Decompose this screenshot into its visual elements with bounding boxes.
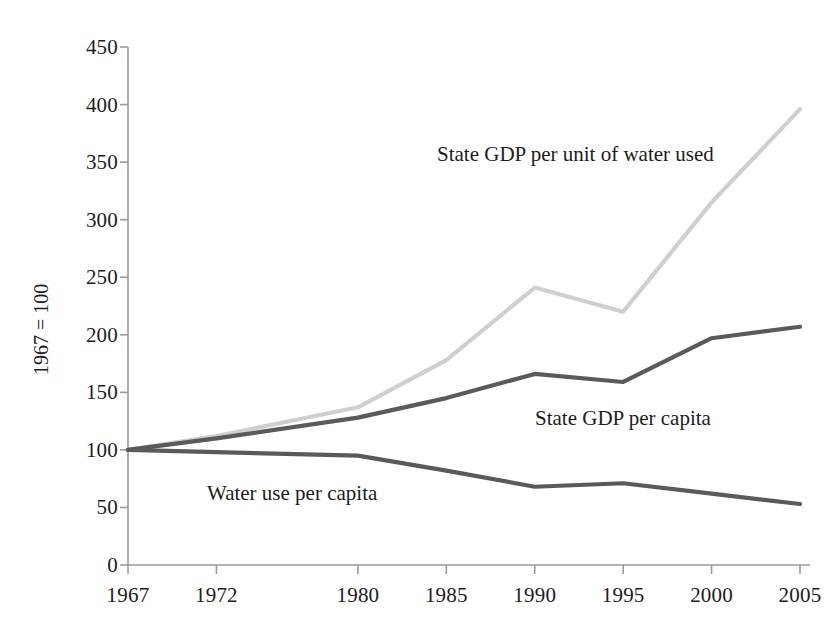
- y-tick-label: 150: [40, 380, 118, 405]
- line-chart-plot: [0, 0, 839, 637]
- series-annotation-3: Water use per capita: [207, 481, 377, 506]
- series-annotation-1: State GDP per unit of water used: [437, 142, 714, 167]
- data-series-lines: [128, 109, 800, 504]
- y-tick-label: 400: [40, 92, 118, 117]
- y-tick-label: 350: [40, 150, 118, 175]
- x-tick-label: 1995: [602, 583, 645, 608]
- x-tick-label: 1967: [107, 583, 150, 608]
- chart-container: 050100150200250300350400450 196719721980…: [0, 0, 839, 637]
- y-tick-label: 50: [40, 495, 118, 520]
- x-tick-label: 1990: [513, 583, 556, 608]
- x-tick-label: 1980: [336, 583, 379, 608]
- series-annotation-2: State GDP per capita: [535, 406, 711, 431]
- y-tick-label: 100: [40, 437, 118, 462]
- x-tick-label: 1972: [195, 583, 238, 608]
- y-tick-label: 300: [40, 207, 118, 232]
- x-tick-label: 2000: [690, 583, 733, 608]
- x-tick-label: 2005: [779, 583, 822, 608]
- y-axis-title: 1967 = 100: [30, 284, 53, 375]
- y-tick-label: 450: [40, 35, 118, 60]
- y-tick-label: 0: [40, 553, 118, 578]
- x-tick-label: 1985: [425, 583, 468, 608]
